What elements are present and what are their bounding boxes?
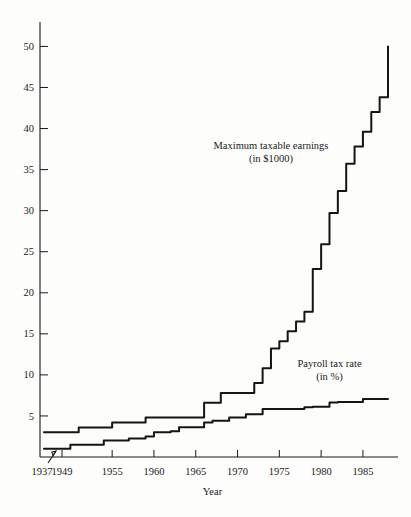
- payroll-tax-rate-label-line2: (in %): [316, 371, 343, 383]
- x-tick-label: 1975: [269, 466, 290, 477]
- y-tick-label: 10: [24, 369, 35, 380]
- y-tick-label: 30: [24, 205, 35, 216]
- x-axis-title: Year: [203, 486, 223, 497]
- x-tick-label: 1960: [143, 466, 164, 477]
- payroll-tax-rate-label: Payroll tax rate(in %): [297, 358, 361, 383]
- series-group: [44, 46, 388, 448]
- maximum-taxable-earnings-label-line2: (in $1000): [249, 153, 294, 165]
- y-tick-label: 45: [24, 82, 35, 93]
- maximum-taxable-earnings-label: Maximum taxable earnings(in $1000): [214, 140, 329, 165]
- y-axis-ticks: 5101520253035404550: [24, 41, 49, 422]
- y-tick-label: 15: [24, 328, 35, 339]
- x-tick-label: 1949: [52, 466, 73, 477]
- payroll-tax-rate-label-line1: Payroll tax rate: [297, 358, 361, 369]
- x-tick-label: 1955: [102, 466, 123, 477]
- y-tick-label: 35: [24, 164, 35, 175]
- maximum-taxable-earnings-label-line1: Maximum taxable earnings: [214, 140, 329, 151]
- axes: [40, 22, 398, 457]
- x-axis-ticks: 193719491955196019651970197519801985: [32, 450, 374, 477]
- y-tick-label: 40: [24, 123, 35, 134]
- chart-container: 5101520253035404550 19371949195519601965…: [0, 0, 411, 517]
- series-payroll-tax-rate: [44, 399, 388, 449]
- annotation-group: Maximum taxable earnings(in $1000)Payrol…: [214, 140, 362, 383]
- x-tick-label: 1937: [32, 466, 53, 477]
- x-tick-label: 1970: [227, 466, 248, 477]
- y-tick-label: 50: [24, 41, 35, 52]
- y-tick-label: 25: [24, 246, 35, 257]
- line-chart: 5101520253035404550 19371949195519601965…: [0, 0, 411, 517]
- y-tick-label: 5: [29, 411, 34, 422]
- x-tick-label: 1980: [311, 466, 332, 477]
- x-tick-label: 1985: [352, 466, 373, 477]
- y-tick-label: 20: [24, 287, 35, 298]
- x-tick-label: 1965: [185, 466, 206, 477]
